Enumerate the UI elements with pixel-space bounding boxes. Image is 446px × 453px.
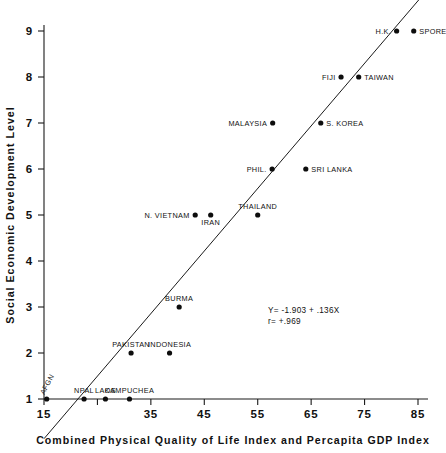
- point-label: H.K.: [376, 27, 392, 36]
- point-label: BURMA: [165, 294, 193, 303]
- y-tick-label-2: 2: [26, 347, 33, 359]
- y-tick-label-3: 3: [26, 301, 33, 313]
- data-point-sri-lanka[interactable]: SRI LANKA: [303, 165, 352, 174]
- point-label: MALAYSIA: [228, 119, 267, 128]
- point-marker: [167, 350, 172, 355]
- x-tick-label-65: 65: [304, 408, 318, 420]
- point-label: TAIWAN: [364, 73, 394, 82]
- axis-titles-group: Combined Physical Quality of Life Index …: [4, 106, 430, 446]
- y-tick-label-1: 1: [26, 393, 33, 405]
- y-tick-label-5: 5: [26, 209, 33, 221]
- data-point-thailand[interactable]: THAILAND: [238, 202, 277, 218]
- tick-labels-group: 15354555657585123456789: [26, 25, 425, 420]
- regression-line-group: [44, 0, 426, 439]
- point-label: PAKISTAN: [112, 340, 150, 349]
- point-marker: [177, 304, 182, 309]
- data-point-malaysia[interactable]: MALAYSIA: [228, 119, 275, 128]
- point-label: AFGN: [38, 373, 56, 396]
- point-label: IRAN: [201, 218, 220, 227]
- y-tick-label-4: 4: [26, 255, 33, 267]
- point-label: NPAL: [74, 386, 94, 395]
- point-marker: [193, 212, 198, 217]
- y-tick-label-9: 9: [26, 25, 33, 37]
- point-marker: [411, 28, 416, 33]
- point-marker: [81, 396, 86, 401]
- data-point-indonesia[interactable]: INDONESIA: [148, 340, 191, 356]
- annotations-group: Y= -1.903 + .136Xr= +.969: [268, 306, 340, 326]
- point-label: N. VIETNAM: [144, 211, 189, 220]
- point-label: FIJI: [322, 73, 336, 82]
- point-marker: [103, 396, 108, 401]
- correlation-coefficient-label: r= +.969: [268, 317, 301, 326]
- data-point-afgn[interactable]: AFGN: [38, 373, 56, 402]
- point-marker: [318, 120, 323, 125]
- point-label: THAILAND: [238, 202, 277, 211]
- data-point-taiwan[interactable]: TAIWAN: [356, 73, 394, 82]
- point-label: SRI LANKA: [311, 165, 352, 174]
- x-tick-label-35: 35: [144, 408, 158, 420]
- point-marker: [128, 350, 133, 355]
- point-label: KAMPUCHEA: [105, 386, 154, 395]
- x-axis-title: Combined Physical Quality of Life Index …: [36, 434, 430, 446]
- point-label: INDONESIA: [148, 340, 191, 349]
- point-marker: [255, 212, 260, 217]
- data-point-pakistan[interactable]: PAKISTAN: [112, 340, 150, 356]
- data-point-phil[interactable]: PHIL.: [247, 165, 275, 174]
- x-tick-label-85: 85: [411, 408, 425, 420]
- data-point-iran[interactable]: IRAN: [201, 212, 220, 227]
- point-marker: [208, 212, 213, 217]
- data-points-group: AFGNNPALLAOSKAMPUCHEAPAKISTANINDONESIABU…: [38, 27, 446, 402]
- x-tick-label-75: 75: [357, 408, 371, 420]
- y-tick-label-6: 6: [26, 163, 33, 175]
- point-marker: [303, 166, 308, 171]
- point-marker: [356, 74, 361, 79]
- y-axis-title: Social Economic Development Level: [4, 106, 16, 323]
- regression-line: [44, 0, 426, 439]
- regression-equation-label: Y= -1.903 + .136X: [268, 306, 340, 315]
- point-marker: [338, 74, 343, 79]
- data-point-burma[interactable]: BURMA: [165, 294, 193, 310]
- point-label: SPORE: [419, 27, 446, 36]
- point-marker: [127, 396, 132, 401]
- point-marker: [270, 120, 275, 125]
- y-tick-label-8: 8: [26, 71, 33, 83]
- point-marker: [44, 396, 49, 401]
- data-point-n-vietnam[interactable]: N. VIETNAM: [144, 211, 197, 220]
- point-marker: [394, 28, 399, 33]
- x-tick-label-15: 15: [37, 408, 51, 420]
- data-point-h-k[interactable]: H.K.: [376, 27, 400, 36]
- point-marker: [270, 166, 275, 171]
- axes-group: [38, 25, 428, 405]
- scatter-plot-figure: AFGNNPALLAOSKAMPUCHEAPAKISTANINDONESIABU…: [0, 0, 446, 453]
- x-tick-label-45: 45: [197, 408, 211, 420]
- x-tick-label-55: 55: [251, 408, 265, 420]
- plot-canvas: AFGNNPALLAOSKAMPUCHEAPAKISTANINDONESIABU…: [0, 0, 446, 453]
- point-label: PHIL.: [247, 165, 267, 174]
- data-point-s-korea[interactable]: S. KOREA: [318, 119, 363, 128]
- data-point-fiji[interactable]: FIJI: [322, 73, 344, 82]
- point-label: S. KOREA: [326, 119, 363, 128]
- y-tick-label-7: 7: [26, 117, 33, 129]
- data-point-spore[interactable]: SPORE: [411, 27, 446, 36]
